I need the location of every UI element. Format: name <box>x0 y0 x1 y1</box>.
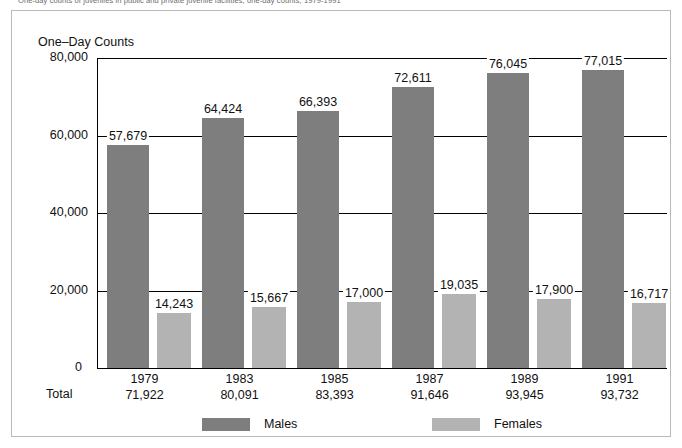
y-axis-title: One–Day Counts <box>38 35 134 49</box>
x-tick-total-1979: 71,922 <box>100 387 190 403</box>
x-tick-total-1985: 83,393 <box>290 387 380 403</box>
legend-item-males[interactable]: Males <box>202 417 297 431</box>
bar-females-1985[interactable] <box>347 302 381 368</box>
legend-label-females: Females <box>494 417 542 431</box>
x-tick-year-1985: 1985 <box>290 371 380 387</box>
x-tick-year-1989: 1989 <box>480 371 570 387</box>
total-row-label: Total <box>46 387 72 401</box>
x-tick-year-1979: 1979 <box>100 371 190 387</box>
bar-group-1985: 66,39317,000 <box>297 58 392 368</box>
bar-females-1987[interactable] <box>442 294 476 368</box>
y-tick-40000: 40,000 <box>12 205 88 219</box>
bar-males-1985[interactable] <box>297 111 339 368</box>
x-group-1989: 198993,945 <box>480 371 570 403</box>
x-tick-year-1983: 1983 <box>195 371 285 387</box>
bar-value-males-1989: 76,045 <box>487 57 529 71</box>
bar-value-males-1979: 57,679 <box>107 129 149 143</box>
legend-swatch-males <box>202 418 250 431</box>
bar-value-females-1983: 15,667 <box>248 291 290 305</box>
bar-group-1987: 72,61119,035 <box>392 58 487 368</box>
x-group-1979: 197971,922 <box>100 371 190 403</box>
bar-males-1983[interactable] <box>202 118 244 368</box>
legend-item-females[interactable]: Females <box>432 417 542 431</box>
bar-females-1979[interactable] <box>157 313 191 368</box>
bar-males-1987[interactable] <box>392 87 434 368</box>
x-axis-line <box>97 368 667 369</box>
x-tick-year-1987: 1987 <box>385 371 475 387</box>
bar-value-males-1987: 72,611 <box>392 71 433 85</box>
bar-group-1989: 76,04517,900 <box>487 58 582 368</box>
bar-females-1989[interactable] <box>537 299 571 368</box>
x-tick-total-1991: 93,732 <box>575 387 665 403</box>
x-tick-total-1983: 80,091 <box>195 387 285 403</box>
x-group-1985: 198583,393 <box>290 371 380 403</box>
chart-frame: One–Day Counts 57,67914,24364,42415,6676… <box>11 10 671 437</box>
x-tick-total-1989: 93,945 <box>480 387 570 403</box>
bar-group-1991: 77,01516,717 <box>582 58 677 368</box>
bar-value-females-1979: 14,243 <box>153 297 195 311</box>
x-tick-year-1991: 1991 <box>575 371 665 387</box>
plot-area: 57,67914,24364,42415,66766,39317,00072,6… <box>97 58 667 368</box>
figure-caption: One-day counts of juveniles in public an… <box>18 0 678 5</box>
bar-value-males-1985: 66,393 <box>297 95 339 109</box>
bar-group-1983: 64,42415,667 <box>202 58 297 368</box>
bar-males-1989[interactable] <box>487 73 529 368</box>
bar-males-1991[interactable] <box>582 70 624 368</box>
legend-label-males: Males <box>264 417 297 431</box>
bar-group-1979: 57,67914,243 <box>107 58 202 368</box>
y-tick-80000: 80,000 <box>12 50 88 64</box>
x-axis-tick-labels: 197971,922198380,091198583,393198791,646… <box>97 371 667 411</box>
bar-value-females-1987: 19,035 <box>438 278 480 292</box>
y-tick-20000: 20,000 <box>12 283 88 297</box>
y-tick-zero: 0 <box>75 360 82 374</box>
bar-value-females-1985: 17,000 <box>343 286 385 300</box>
bar-value-females-1991: 16,717 <box>628 287 670 301</box>
x-tick-total-1987: 91,646 <box>385 387 475 403</box>
chart-legend: MalesFemales <box>12 415 672 439</box>
legend-swatch-females <box>432 418 480 431</box>
y-tick-60000: 60,000 <box>12 128 88 142</box>
bar-females-1983[interactable] <box>252 307 286 368</box>
bar-females-1991[interactable] <box>632 303 666 368</box>
x-group-1987: 198791,646 <box>385 371 475 403</box>
bar-males-1979[interactable] <box>107 145 149 369</box>
bar-value-males-1983: 64,424 <box>202 102 244 116</box>
bar-value-males-1991: 77,015 <box>582 54 624 68</box>
x-group-1991: 199193,732 <box>575 371 665 403</box>
bar-value-females-1989: 17,900 <box>533 283 575 297</box>
x-group-1983: 198380,091 <box>195 371 285 403</box>
